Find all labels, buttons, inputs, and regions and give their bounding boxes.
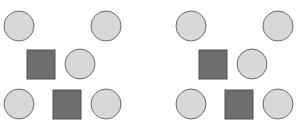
circle-shape [65,49,95,79]
shapes-diagram [0,0,299,121]
circle-shape [91,89,121,119]
square-shape [27,50,55,79]
circle-shape [4,11,34,41]
square-shape [199,50,227,79]
panel-right [176,11,293,119]
circle-shape [176,11,206,41]
panel-left [4,11,121,119]
circle-shape [4,89,34,119]
square-shape [225,90,253,119]
circle-shape [91,11,121,41]
circle-shape [263,11,293,41]
circle-shape [263,89,293,119]
square-shape [53,90,81,119]
circle-shape [176,89,206,119]
circle-shape [237,49,267,79]
